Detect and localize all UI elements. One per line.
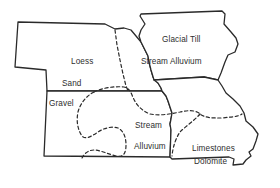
map-canvas [0, 0, 280, 188]
label-gravel: Gravel [49, 100, 74, 108]
label-stream-alluvium-north: Stream Alluvium [141, 58, 202, 66]
label-stream: Stream [135, 122, 162, 130]
label-sand: Sand [62, 80, 82, 88]
label-glacial-till: Glacial Till [162, 36, 201, 44]
label-limestones: Limestones [192, 145, 235, 153]
soil-map: Loess Sand Gravel Glacial Till Stream Al… [0, 0, 280, 188]
label-dolomite: Dolomite [194, 158, 227, 166]
label-alluvium: Alluvium [134, 143, 166, 151]
state-iowa [139, 11, 238, 80]
label-loess: Loess [71, 58, 93, 66]
